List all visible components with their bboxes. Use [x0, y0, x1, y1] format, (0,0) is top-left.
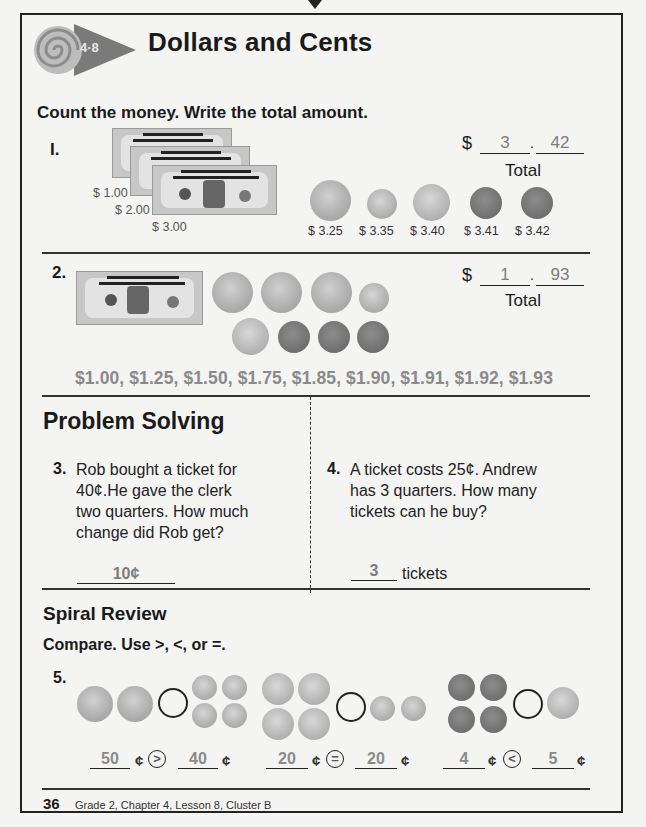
- bill-label-3: $ 3.00: [152, 220, 187, 234]
- page-number: 36: [43, 795, 60, 812]
- problem-4-text: A ticket costs 25¢. Andrew has 3 quarter…: [350, 459, 537, 522]
- running-total-label: $ 3.41: [464, 224, 499, 238]
- compare-symbol-answer[interactable]: >: [148, 750, 166, 768]
- quarter-coin: [212, 272, 253, 313]
- cents-answer-field[interactable]: 42: [536, 133, 584, 154]
- dollars-answer-field[interactable]: 3: [480, 133, 530, 154]
- penny-coin: [278, 321, 310, 353]
- column-divider: [310, 397, 311, 593]
- compare-symbol-answer[interactable]: <: [503, 750, 521, 768]
- quarter-coin: [310, 180, 351, 221]
- dime-coin: [359, 283, 389, 313]
- dime-coin: [401, 696, 426, 721]
- total-label: Total: [505, 291, 541, 311]
- nickel-coin: [262, 673, 294, 705]
- instructions: Compare. Use >, <, or =.: [43, 636, 226, 654]
- running-total-label: $ 3.40: [410, 224, 445, 238]
- cent-sign: ¢: [312, 752, 320, 769]
- counting-sequence: $1.00, $1.25, $1.50, $1.75, $1.85, $1.90…: [75, 368, 553, 389]
- problem-3-answer-field[interactable]: 10¢: [77, 565, 175, 584]
- problem-4-answer-field[interactable]: 3: [351, 562, 397, 581]
- compare-circle[interactable]: [158, 688, 188, 718]
- text-line: has 3 quarters. How many: [350, 480, 537, 501]
- penny-coin: [448, 674, 475, 701]
- cent-sign: ¢: [577, 752, 585, 769]
- answer-unit: tickets: [402, 563, 447, 584]
- footer-divider: [42, 788, 590, 790]
- text-line: two quarters. How much: [76, 501, 249, 522]
- dime-coin: [222, 675, 247, 700]
- problem-2-number: 2.: [52, 263, 66, 283]
- cents-answer-field[interactable]: 93: [536, 265, 584, 286]
- compare-right-answer[interactable]: 40: [178, 750, 218, 769]
- problem-1-number: I.: [50, 140, 59, 160]
- nickel-coin: [298, 673, 330, 705]
- penny-coin: [448, 706, 475, 733]
- instructions: Count the money. Write the total amount.: [37, 103, 368, 123]
- penny-coin: [480, 674, 507, 701]
- problem-3-number: 3.: [53, 460, 66, 478]
- compare-circle[interactable]: [336, 692, 366, 722]
- lesson-number-badge: 4·8: [80, 40, 99, 55]
- running-total-label: $ 3.25: [308, 224, 343, 238]
- penny-coin: [470, 187, 502, 219]
- compare-symbol-answer[interactable]: =: [326, 750, 344, 768]
- dime-coin: [192, 675, 217, 700]
- compare-circle[interactable]: [513, 689, 543, 719]
- cent-sign: ¢: [401, 752, 409, 769]
- compare-right-answer[interactable]: 5: [532, 750, 574, 769]
- penny-coin: [318, 321, 350, 353]
- problem-4-number: 4.: [327, 460, 340, 478]
- quarter-coin: [77, 686, 113, 722]
- text-line: tickets can he buy?: [350, 501, 537, 522]
- page-title: Dollars and Cents: [148, 27, 372, 58]
- decimal-point: .: [530, 267, 534, 283]
- dollar-bill-3: [152, 165, 277, 215]
- compare-left-answer[interactable]: 20: [266, 750, 308, 769]
- divider: [42, 252, 590, 254]
- quarter-coin: [311, 272, 352, 313]
- dollar-sign: $: [462, 133, 472, 154]
- running-total-label: $ 3.35: [359, 224, 394, 238]
- dollar-bill: [76, 271, 203, 325]
- divider: [42, 588, 590, 590]
- bill-label-1: $ 1.00: [93, 186, 128, 200]
- penny-coin: [521, 187, 553, 219]
- compare-right-answer[interactable]: 20: [355, 750, 397, 769]
- nickel-coin: [232, 318, 269, 355]
- cent-sign: ¢: [488, 752, 496, 769]
- dime-coin: [222, 703, 247, 728]
- footer-text: Grade 2, Chapter 4, Lesson 8, Cluster B: [75, 799, 271, 811]
- text-line: Rob bought a ticket for: [76, 459, 249, 480]
- dollars-answer-field[interactable]: 1: [480, 265, 530, 286]
- decimal-point: .: [530, 135, 534, 151]
- cent-sign: ¢: [135, 752, 143, 769]
- penny-coin: [480, 706, 507, 733]
- problem-5-number: 5.: [53, 669, 66, 687]
- section-heading: Problem Solving: [43, 408, 224, 435]
- divider: [42, 395, 590, 397]
- penny-coin: [357, 321, 389, 353]
- quarter-coin: [117, 686, 153, 722]
- page-top-marker: [308, 0, 322, 9]
- compare-left-answer[interactable]: 50: [90, 750, 130, 769]
- text-line: 40¢.He gave the clerk: [76, 480, 249, 501]
- dime-coin: [192, 703, 217, 728]
- text-line: A ticket costs 25¢. Andrew: [350, 459, 537, 480]
- text-line: change did Rob get?: [76, 522, 249, 543]
- nickel-coin: [413, 184, 450, 221]
- total-label: Total: [505, 161, 541, 181]
- running-total-label: $ 3.42: [515, 224, 550, 238]
- nickel-coin: [547, 687, 579, 719]
- nickel-coin: [298, 708, 330, 740]
- nickel-coin: [262, 708, 294, 740]
- bill-label-2: $ 2.00: [115, 203, 150, 217]
- dollar-sign: $: [462, 265, 472, 286]
- dime-coin: [370, 696, 395, 721]
- problem-3-text: Rob bought a ticket for 40¢.He gave the …: [76, 459, 249, 543]
- section-heading: Spiral Review: [43, 603, 167, 625]
- cent-sign: ¢: [222, 752, 230, 769]
- quarter-coin: [261, 272, 302, 313]
- compare-left-answer[interactable]: 4: [443, 750, 485, 769]
- dime-coin: [367, 189, 397, 219]
